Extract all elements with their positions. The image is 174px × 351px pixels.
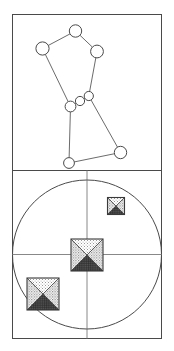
graph-node[interactable]: [65, 101, 76, 112]
graph-node[interactable]: [84, 91, 93, 100]
graph-node[interactable]: [64, 158, 75, 169]
graph-node[interactable]: [91, 45, 104, 58]
figure-root: [0, 0, 174, 351]
graph-node[interactable]: [36, 42, 49, 55]
data-marker[interactable]: [108, 198, 125, 215]
graph-node[interactable]: [69, 25, 81, 37]
data-marker[interactable]: [71, 239, 103, 271]
figure-canvas: [0, 0, 174, 351]
graph-node[interactable]: [114, 146, 126, 158]
data-marker[interactable]: [27, 278, 59, 310]
graph-node[interactable]: [75, 96, 84, 105]
